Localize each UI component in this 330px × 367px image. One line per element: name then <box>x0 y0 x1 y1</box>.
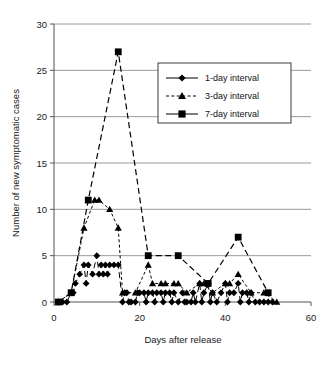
y-axis-ticks <box>50 24 54 302</box>
data-point-marker <box>160 299 167 306</box>
data-point-marker <box>235 280 242 287</box>
data-point-marker <box>55 299 62 306</box>
x-axis-tick-labels: 0204060 <box>51 312 316 323</box>
data-point-marker <box>168 299 175 306</box>
legend-label-2: 3-day interval <box>205 91 259 101</box>
chart-legend: 1-day interval3-day interval7-day interv… <box>158 63 291 123</box>
y-tick-label-25: 25 <box>36 65 47 76</box>
y-tick-label-30: 30 <box>36 19 47 30</box>
symptomatic-cases-line-chart: 051015202530 0204060 Number of new sympt… <box>0 0 330 367</box>
x-tick-label-40: 40 <box>220 312 231 323</box>
data-point-marker <box>132 299 139 306</box>
x-tick-label-60: 60 <box>306 312 317 323</box>
data-point-marker <box>245 299 252 306</box>
data-point-marker <box>175 299 182 306</box>
series-1-day-interval <box>55 252 276 305</box>
data-point-marker <box>175 280 182 286</box>
data-point-marker <box>231 289 238 296</box>
data-point-marker <box>218 289 225 296</box>
data-point-marker <box>85 197 92 204</box>
data-point-marker <box>115 224 122 230</box>
data-point-marker <box>89 271 96 278</box>
data-point-marker <box>151 299 158 306</box>
data-point-marker <box>207 299 214 306</box>
data-point-marker <box>149 280 156 286</box>
data-point-marker <box>265 289 272 296</box>
x-tick-label-0: 0 <box>51 312 56 323</box>
x-tick-label-20: 20 <box>134 312 145 323</box>
y-tick-label-10: 10 <box>36 204 47 215</box>
data-point-marker <box>68 289 75 296</box>
data-point-marker <box>235 271 242 277</box>
data-point-marker <box>145 252 152 259</box>
x-axis-title: Days after release <box>144 334 221 345</box>
legend-label-1: 1-day interval <box>205 73 259 83</box>
horizontal-gridlines <box>54 24 311 256</box>
series-line <box>58 200 276 302</box>
legend-marker-square-icon <box>178 110 185 117</box>
legend-label-3: 7-day interval <box>205 109 259 119</box>
data-point-marker <box>143 299 150 306</box>
data-point-marker <box>205 280 212 287</box>
data-point-marker <box>93 252 100 259</box>
data-point-marker <box>175 252 182 259</box>
y-tick-label-0: 0 <box>42 297 47 308</box>
y-tick-label-15: 15 <box>36 158 47 169</box>
data-point-marker <box>235 234 242 241</box>
data-point-marker <box>201 289 208 296</box>
data-point-marker <box>80 224 87 230</box>
data-point-marker <box>76 271 83 278</box>
y-axis-title: Number of new symptomatic cases <box>10 89 21 237</box>
data-point-marker <box>63 299 70 306</box>
data-point-marker <box>85 262 92 269</box>
data-point-marker <box>198 299 205 306</box>
data-point-marker <box>192 299 199 306</box>
data-point-marker <box>115 48 122 55</box>
y-tick-label-20: 20 <box>36 111 47 122</box>
y-tick-label-5: 5 <box>42 250 47 261</box>
data-point-marker <box>104 271 111 278</box>
data-point-marker <box>83 280 90 287</box>
data-point-marker <box>145 261 152 267</box>
data-point-marker <box>237 299 244 306</box>
data-point-marker <box>119 299 126 306</box>
series-3-day-interval <box>55 197 281 305</box>
data-point-marker <box>171 289 178 296</box>
data-point-marker <box>213 299 220 306</box>
chart-container: 051015202530 0204060 Number of new sympt… <box>0 0 330 367</box>
y-axis-tick-labels: 051015202530 <box>36 19 47 308</box>
